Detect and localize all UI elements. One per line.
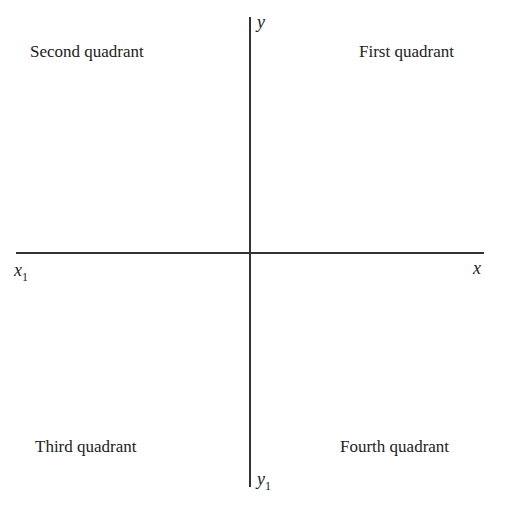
y-axis-label: y <box>257 12 265 33</box>
x-axis-label: x <box>473 258 481 279</box>
third-quadrant-label: Third quadrant <box>35 437 137 457</box>
second-quadrant-label: Second quadrant <box>30 42 144 62</box>
y1-sub: 1 <box>265 479 271 493</box>
x1-axis-label: x1 <box>14 260 28 285</box>
y1-base: y <box>257 469 265 489</box>
y1-axis-label: y1 <box>257 469 271 494</box>
x1-base: x <box>14 260 22 280</box>
x1-sub: 1 <box>22 270 28 284</box>
first-quadrant-label: First quadrant <box>359 42 454 62</box>
fourth-quadrant-label: Fourth quadrant <box>340 437 449 457</box>
y-axis <box>249 17 251 487</box>
